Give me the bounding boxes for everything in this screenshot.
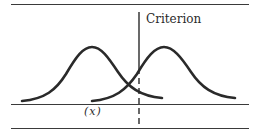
signal-detection-diagram bbox=[0, 0, 257, 134]
left-distribution-curve bbox=[22, 47, 162, 101]
x-axis-label: (x) bbox=[84, 105, 102, 118]
criterion-label: Criterion bbox=[146, 12, 201, 26]
right-distribution-curve bbox=[92, 47, 235, 101]
